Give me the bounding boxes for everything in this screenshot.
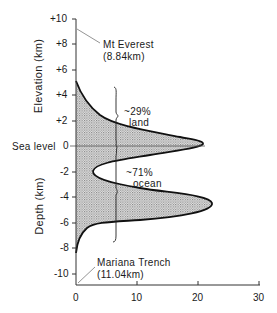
y-tick-label: -6 — [60, 218, 69, 228]
y-tick-label: +2 — [56, 116, 67, 126]
x-tick-label: 30 — [253, 293, 264, 303]
trench-depth: (11.04km) — [97, 269, 144, 280]
ocean-label: ocean — [133, 178, 162, 189]
y-tick-label: +6 — [56, 65, 67, 75]
everest-pointer — [77, 29, 100, 43]
trench-label: Mariana Trench — [97, 257, 171, 268]
y-ticks — [72, 19, 76, 274]
y-tick-label: +8 — [56, 39, 67, 49]
everest-height: (8.84km) — [103, 51, 145, 62]
y-tick-label: 0 — [63, 141, 69, 151]
ocean-percentage: ~71% — [126, 167, 153, 178]
x-tick-label: 10 — [131, 293, 142, 303]
land-percentage: ~29% — [124, 106, 151, 117]
y-tick-label: -2 — [60, 167, 69, 177]
y-tick-label: +4 — [56, 90, 67, 100]
elevation-axis-title: Elevation (km) — [32, 38, 44, 114]
sea-level-label: Sea level — [12, 141, 56, 152]
x-tick-label: 0 — [73, 293, 79, 303]
land-label: land — [129, 117, 149, 128]
everest-label: Mt Everest — [103, 39, 154, 50]
trench-pointer — [78, 267, 95, 283]
x-tick-label: 20 — [192, 293, 203, 303]
y-tick-label: -8 — [60, 243, 69, 253]
y-tick-label: -10 — [54, 269, 68, 279]
depth-axis-title: Depth (km) — [33, 175, 45, 237]
x-ticks — [137, 281, 259, 285]
y-tick-label: -4 — [60, 192, 69, 202]
hypsometric-chart: +10 +8 +6 +4 +2 0 -2 -4 -6 -8 -10 0 10 2… — [0, 0, 277, 313]
y-tick-label: +10 — [50, 14, 67, 24]
